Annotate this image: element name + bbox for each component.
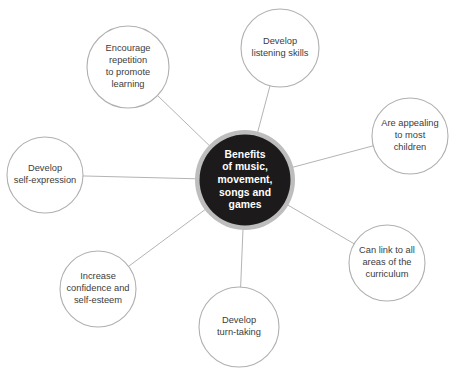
node-can-link-to-curriculum[interactable]: Can link to allareas of thecurriculum <box>349 225 425 301</box>
spoke-line-develop-listening-skills <box>258 85 271 133</box>
node-encourage-repetition[interactable]: Encouragerepetitionto promotelearning <box>87 26 169 108</box>
node-develop-turn-taking[interactable]: Developturn-taking <box>199 287 279 367</box>
node-label-can-link-to-curriculum: Can link to allareas of thecurriculum <box>359 245 415 279</box>
spoke-line-develop-turn-taking <box>241 229 243 288</box>
spoke-line-encourage-repetition <box>157 95 210 146</box>
node-are-appealing-to-most-children[interactable]: Are appealingto mostchildren <box>372 98 448 174</box>
spoke-line-are-appealing-to-most-children <box>292 146 374 168</box>
spoke-line-develop-self-expression <box>82 176 196 179</box>
node-develop-listening-skills[interactable]: Developlistening skills <box>241 9 319 87</box>
mind-map-canvas: Developlistening skillsEncouragerepetiti… <box>0 0 454 372</box>
spoke-line-can-link-to-curriculum <box>287 205 355 245</box>
hub-node[interactable]: Benefitsof music,movement,songs andgames <box>195 130 295 230</box>
mind-map-diagram: Developlistening skillsEncouragerepetiti… <box>0 0 454 372</box>
spoke-line-increase-confidence <box>128 209 206 267</box>
node-increase-confidence[interactable]: Increaseconfidence andself-esteem <box>60 251 136 327</box>
node-develop-self-expression[interactable]: Developself-expression <box>7 137 83 213</box>
